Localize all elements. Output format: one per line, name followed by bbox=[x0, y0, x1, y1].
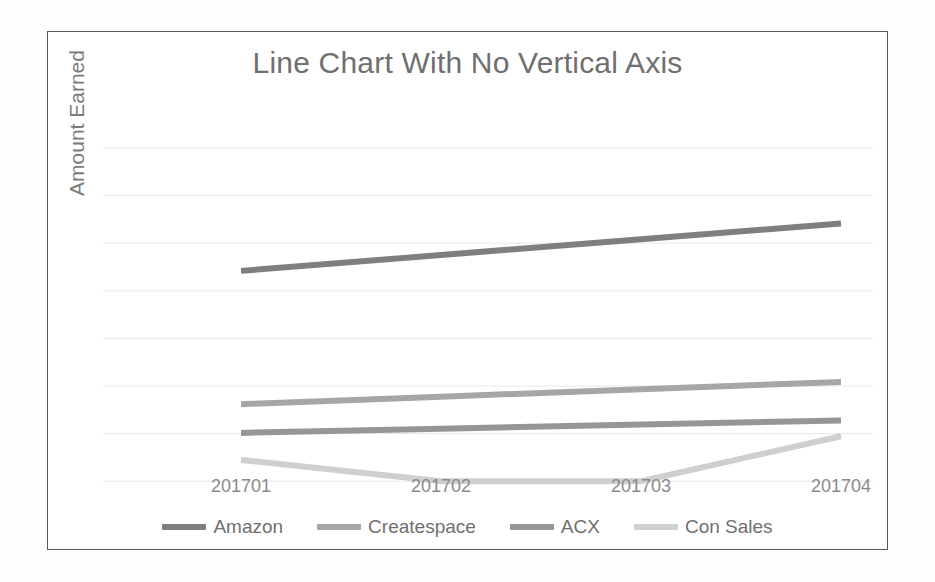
x-axis-labels: 201701201702201703201704 bbox=[103, 476, 873, 504]
legend-item-con-sales[interactable]: Con Sales bbox=[634, 516, 773, 538]
legend-swatch-icon bbox=[510, 524, 554, 530]
page-surface: Line Chart With No Vertical Axis Amount … bbox=[0, 0, 935, 582]
chart-legend[interactable]: AmazonCreatespaceACXCon Sales bbox=[48, 516, 887, 538]
legend-label: ACX bbox=[561, 516, 600, 538]
legend-swatch-icon bbox=[634, 524, 678, 530]
series-line-con-sales[interactable] bbox=[241, 436, 841, 481]
x-tick-label: 201701 bbox=[171, 476, 311, 497]
legend-swatch-icon bbox=[317, 524, 361, 530]
plot-area[interactable] bbox=[103, 82, 873, 472]
y-axis-title: Amount Earned bbox=[65, 28, 91, 218]
legend-item-amazon[interactable]: Amazon bbox=[162, 516, 283, 538]
legend-label: Createspace bbox=[368, 516, 476, 538]
x-tick-label: 201702 bbox=[371, 476, 511, 497]
chart-title: Line Chart With No Vertical Axis bbox=[48, 46, 887, 80]
x-tick-label: 201704 bbox=[771, 476, 911, 497]
legend-label: Amazon bbox=[213, 516, 283, 538]
series-layer bbox=[103, 82, 873, 472]
series-line-amazon[interactable] bbox=[241, 223, 841, 270]
series-line-acx[interactable] bbox=[241, 420, 841, 432]
legend-item-acx[interactable]: ACX bbox=[510, 516, 600, 538]
series-line-createspace[interactable] bbox=[241, 382, 841, 404]
legend-label: Con Sales bbox=[685, 516, 773, 538]
chart-frame[interactable]: Line Chart With No Vertical Axis Amount … bbox=[47, 31, 888, 550]
x-tick-label: 201703 bbox=[571, 476, 711, 497]
legend-swatch-icon bbox=[162, 524, 206, 530]
legend-item-createspace[interactable]: Createspace bbox=[317, 516, 476, 538]
